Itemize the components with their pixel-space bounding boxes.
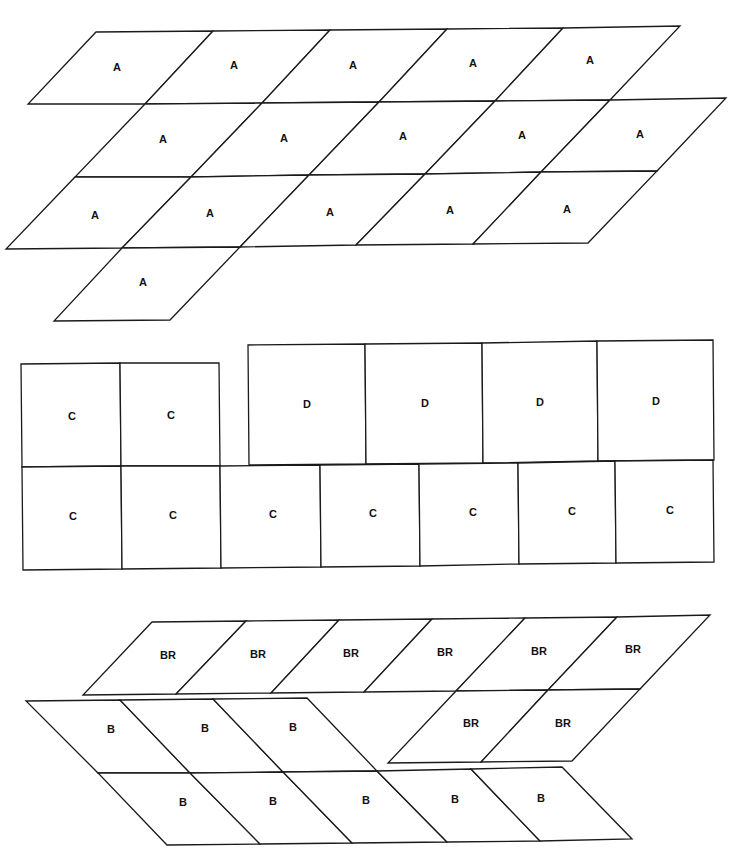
tile-label: D: [421, 397, 429, 409]
tile-a: A: [54, 247, 240, 321]
tile-outline: [54, 247, 240, 321]
tile-d: D: [365, 343, 483, 464]
tile-label: BR: [160, 649, 176, 661]
tile-c: C: [120, 363, 220, 466]
tile-label: B: [362, 794, 370, 806]
tile-label: D: [536, 396, 544, 408]
tile-label: B: [107, 723, 115, 735]
tile-label: C: [68, 410, 76, 422]
tile-label: A: [399, 130, 407, 142]
tile-c: C: [220, 465, 321, 568]
tile-label: A: [586, 54, 594, 66]
tile-c: C: [518, 461, 616, 564]
tile-label: D: [652, 395, 660, 407]
tile-label: A: [91, 209, 99, 221]
group-a-tiles: AAAAAAAAAAAAAAAA: [6, 26, 726, 321]
tile-label: BR: [531, 645, 547, 657]
tile-c: C: [121, 466, 221, 569]
tile-label: C: [169, 509, 177, 521]
tile-label: A: [159, 133, 167, 145]
tile-outline: [518, 461, 616, 564]
tile-c: C: [21, 363, 121, 467]
tile-c: C: [419, 463, 519, 566]
tile-label: C: [666, 504, 674, 516]
tile-label: C: [369, 507, 377, 519]
tile-label: BR: [625, 643, 641, 655]
tile-label: A: [326, 206, 334, 218]
group-d-tiles: DDDD: [248, 340, 714, 465]
tile-label: C: [469, 506, 477, 518]
tile-label: B: [201, 722, 209, 734]
tile-label: A: [446, 204, 454, 216]
tile-d: D: [597, 340, 714, 461]
tile-label: C: [568, 505, 576, 517]
tile-label: C: [269, 508, 277, 520]
tile-d: D: [482, 341, 598, 463]
tile-c: C: [22, 466, 122, 570]
tile-label: C: [167, 409, 175, 421]
tile-label: A: [230, 59, 238, 71]
tile-label: A: [636, 128, 644, 140]
tile-label: A: [518, 129, 526, 141]
tile-label: B: [451, 793, 459, 805]
tile-label: B: [289, 721, 297, 733]
tile-label: B: [269, 795, 277, 807]
tile-label: D: [303, 398, 311, 410]
tile-label: A: [139, 276, 147, 288]
tile-label: A: [469, 57, 477, 69]
tiling-diagram: AAAAAAAAAAAAAAAA CC DDDD CCCCCCC BRBRBRB…: [0, 0, 735, 855]
tile-label: BR: [250, 648, 266, 660]
tile-label: A: [563, 203, 571, 215]
tile-label: A: [206, 207, 214, 219]
tile-label: BR: [463, 717, 479, 729]
tile-label: C: [69, 510, 77, 522]
tile-label: BR: [555, 717, 571, 729]
tile-label: A: [280, 132, 288, 144]
tile-label: BR: [343, 647, 359, 659]
tile-label: BR: [437, 646, 453, 658]
tile-c: C: [615, 460, 714, 563]
tile-d: D: [248, 344, 366, 465]
tile-label: B: [179, 796, 187, 808]
tile-label: A: [349, 59, 357, 71]
group-c-bottom-tiles: CCCCCCC: [22, 460, 714, 570]
tile-label: B: [537, 792, 545, 804]
tile-c: C: [320, 464, 420, 567]
tile-outline: [615, 460, 714, 563]
group-c-top-tiles: CC: [21, 363, 220, 467]
tile-label: A: [113, 61, 121, 73]
